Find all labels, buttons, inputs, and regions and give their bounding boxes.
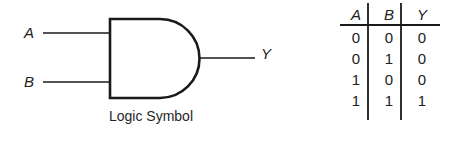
- truth-table: A B Y 0 0 0 0 1 0 1 0 0 1 1 1: [336, 2, 448, 130]
- input-label-b: B: [24, 74, 34, 89]
- truth-table-cell: 0: [340, 50, 372, 67]
- logic-gate-figure-page: A B Y Logic Symbol A B Y 0 0 0 0 1 0 1 0…: [0, 0, 453, 141]
- truth-table-cell: 1: [340, 92, 372, 109]
- truth-table-cell: 1: [373, 92, 405, 109]
- truth-table-cell: 1: [373, 50, 405, 67]
- truth-table-cell: 0: [406, 71, 438, 88]
- truth-table-cell: 1: [340, 71, 372, 88]
- truth-table-cell: 1: [406, 92, 438, 109]
- truth-table-header-a: A: [340, 6, 372, 23]
- truth-table-header-y: Y: [406, 6, 438, 23]
- truth-table-cell: 0: [406, 29, 438, 46]
- truth-table-header-b: B: [373, 6, 405, 23]
- output-label-y: Y: [261, 46, 271, 61]
- figure-caption: Logic Symbol: [86, 108, 216, 124]
- and-gate-diagram: A B Y Logic Symbol: [0, 0, 290, 141]
- input-label-a: A: [24, 25, 34, 40]
- truth-table-cell: 0: [373, 71, 405, 88]
- and-gate-body: [110, 19, 200, 98]
- truth-table-cell: 0: [340, 29, 372, 46]
- truth-table-cell: 0: [373, 29, 405, 46]
- truth-table-cell: 0: [406, 50, 438, 67]
